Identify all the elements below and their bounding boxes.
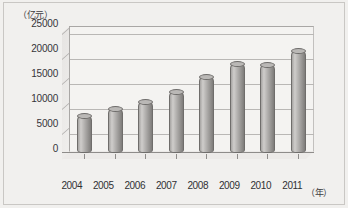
bar-top-cap: [138, 99, 153, 105]
y-axis-tick-label: 10000: [10, 94, 58, 104]
bar-2006: [138, 101, 153, 153]
x-axis-tick-label: 2005: [86, 180, 120, 191]
x-axis-tick-mark: [84, 154, 85, 159]
bar-2010: [260, 64, 275, 153]
bar-2011: [291, 50, 306, 153]
chart-figure: （亿元） （年） 0500010000150002000025000 20042…: [0, 0, 348, 208]
plot-area: [62, 26, 314, 160]
bar-top-cap: [230, 61, 245, 67]
y-axis-tick-label: 20000: [10, 44, 58, 54]
x-axis-tick-mark: [298, 154, 299, 159]
x-axis-tick-label: 2008: [181, 180, 215, 191]
bar-top-cap: [169, 89, 184, 95]
x-axis-tick-label: 2004: [55, 180, 89, 191]
bar-2008: [199, 76, 214, 153]
x-axis-tick-label: 2006: [118, 180, 152, 191]
y-axis-tick-label: 25000: [10, 19, 58, 29]
x-axis-tick-mark: [176, 154, 177, 159]
y-axis-tick-labels: 0500010000150002000025000: [10, 24, 58, 160]
x-axis-tick-mark: [206, 154, 207, 159]
y-axis-tick-label: 15000: [10, 69, 58, 79]
y-axis-tick-label: 5000: [10, 119, 58, 129]
bar-2004: [77, 115, 92, 153]
bar-2007: [169, 91, 184, 153]
x-axis-tick-labels: 20042005200620072008200920102011: [56, 180, 314, 196]
x-axis-tick-mark: [115, 154, 116, 159]
x-axis-tick-label: 2007: [149, 180, 183, 191]
bar-top-cap: [199, 74, 214, 80]
x-axis-tick-mark: [237, 154, 238, 159]
x-axis-tick-mark: [267, 154, 268, 159]
bar-top-cap: [108, 106, 123, 112]
x-axis-tick-label: 2009: [212, 180, 246, 191]
bar-top-cap: [77, 113, 92, 119]
bar-top-cap: [260, 62, 275, 68]
x-axis-tick-label: 2011: [275, 180, 309, 191]
x-axis-tick-label: 2010: [244, 180, 278, 191]
x-axis-tick-mark: [145, 154, 146, 159]
bar-top-cap: [291, 48, 306, 54]
y-axis-tick-label: 0: [10, 144, 58, 154]
bar-2009: [230, 63, 245, 153]
bar-series: [70, 26, 314, 153]
bar-2005: [108, 108, 123, 153]
